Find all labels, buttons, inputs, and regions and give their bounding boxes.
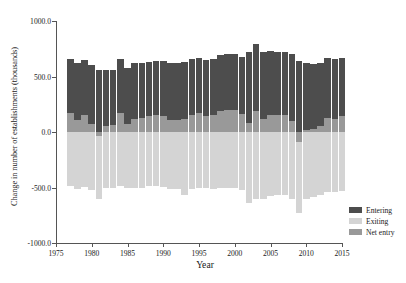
x-axis-tick-label: 2015 — [322, 249, 362, 258]
bar-entering — [260, 52, 267, 119]
bar-entering — [317, 63, 324, 126]
bar-exiting — [282, 132, 289, 195]
bar-entering — [139, 63, 146, 119]
bar-exiting — [253, 132, 260, 199]
bar-net-entry — [217, 111, 224, 132]
bar-net-entry — [189, 115, 196, 132]
y-axis-tick-label: 500.0 — [3, 73, 51, 82]
bar-net-entry — [231, 110, 238, 132]
x-axis-tick — [306, 243, 307, 247]
bar-exiting — [81, 132, 88, 187]
bar-net-entry — [267, 115, 274, 132]
legend-label: Entering — [366, 206, 392, 215]
bar-net-entry — [339, 116, 346, 132]
bar-exiting — [324, 132, 331, 192]
y-axis-tick-label: -500.0 — [3, 184, 51, 193]
bar-exiting — [88, 132, 95, 190]
legend-swatch-icon — [349, 218, 362, 224]
bar-net-entry — [181, 119, 188, 132]
x-axis-tick — [92, 243, 93, 247]
bar-entering — [224, 54, 231, 110]
x-axis-tick-label: 2010 — [286, 249, 326, 258]
bar-net-entry — [324, 118, 331, 132]
y-axis-tick-label: -1000.0 — [3, 239, 51, 248]
bar-entering — [174, 63, 181, 120]
bar-net-entry — [303, 130, 310, 132]
bar-entering — [246, 52, 253, 123]
bar-net-entry — [210, 115, 217, 132]
bar-entering — [274, 52, 281, 115]
bar-entering — [110, 70, 117, 126]
bar-entering — [203, 60, 210, 116]
bar-exiting — [124, 132, 131, 188]
bar-exiting — [310, 132, 317, 197]
bar-exiting — [153, 132, 160, 186]
bar-exiting — [181, 132, 188, 195]
bar-exiting — [196, 132, 203, 188]
legend-item: Net entry — [349, 227, 394, 237]
bar-net-entry — [110, 125, 117, 132]
bar-exiting — [217, 132, 224, 188]
bar-net-entry — [103, 126, 110, 132]
legend-item: Entering — [349, 205, 394, 215]
bar-entering — [253, 44, 260, 111]
bar-net-entry — [289, 121, 296, 132]
bar-exiting — [146, 132, 153, 186]
bar-exiting — [117, 132, 124, 186]
bar-net-entry — [310, 129, 317, 132]
legend-label: Net entry — [366, 228, 394, 237]
bar-entering — [167, 63, 174, 120]
bar-entering — [324, 58, 331, 118]
bar-net-entry — [174, 120, 181, 132]
bar-entering — [332, 59, 339, 119]
bar-exiting — [203, 132, 210, 188]
bar-net-entry — [146, 116, 153, 132]
bar-net-entry — [67, 113, 74, 132]
bar-net-entry — [253, 111, 260, 132]
bar-entering — [81, 60, 88, 115]
bar-exiting — [210, 132, 217, 189]
bar-exiting — [160, 132, 167, 187]
x-axis-tick-label: 2005 — [251, 249, 291, 258]
bar-exiting — [224, 132, 231, 188]
x-axis-tick-label: 1980 — [72, 249, 112, 258]
bar-exiting — [274, 132, 281, 195]
y-axis-title: Change in number of establishments (thou… — [10, 27, 19, 227]
bar-net-entry — [117, 113, 124, 132]
bar-net-entry — [124, 124, 131, 132]
bar-net-entry — [196, 113, 203, 132]
bar-entering — [196, 58, 203, 114]
legend-label: Exiting — [366, 217, 388, 226]
bar-net-entry — [260, 119, 267, 132]
bar-net-entry — [246, 123, 253, 132]
bar-exiting — [74, 132, 81, 189]
bar-exiting — [67, 132, 74, 186]
bar-entering — [131, 63, 138, 119]
bar-entering — [282, 52, 289, 115]
legend: EnteringExitingNet entry — [349, 205, 394, 238]
bar-exiting — [303, 132, 310, 199]
bar-exiting — [239, 132, 246, 190]
bar-net-entry — [131, 119, 138, 132]
bar-entering — [289, 54, 296, 121]
bar-exiting — [332, 132, 339, 192]
bar-entering — [160, 61, 167, 116]
bar-net-entry — [160, 116, 167, 132]
x-axis-tick-label: 1995 — [179, 249, 219, 258]
x-axis-tick — [199, 243, 200, 247]
legend-item: Exiting — [349, 216, 394, 226]
bar-net-entry — [296, 132, 303, 142]
bar-entering — [303, 63, 310, 130]
bar-net-entry — [317, 126, 324, 132]
bar-entering — [231, 54, 238, 110]
bar-exiting — [131, 132, 138, 188]
bar-exiting — [231, 132, 238, 188]
bar-exiting — [174, 132, 181, 189]
bar-entering — [181, 62, 188, 119]
plot-area — [56, 21, 342, 243]
bar-net-entry — [96, 132, 103, 136]
bar-net-entry — [81, 115, 88, 132]
bar-entering — [74, 63, 81, 120]
x-axis-tick — [56, 243, 57, 247]
bar-entering — [217, 55, 224, 111]
